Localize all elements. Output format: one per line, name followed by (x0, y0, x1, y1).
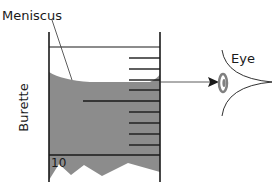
burette-diagram (0, 0, 276, 187)
meniscus-label: Meniscus (2, 8, 62, 23)
eye-label: Eye (231, 51, 255, 66)
scale-value-label: 10 (51, 156, 66, 170)
burette-label: Burette (16, 83, 31, 133)
meniscus-leader-line (52, 20, 72, 80)
